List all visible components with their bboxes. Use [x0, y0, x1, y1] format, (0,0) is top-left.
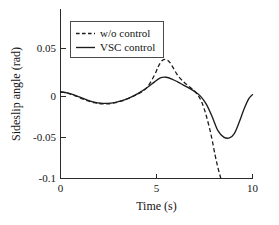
legend-label-vsc-control: VSC control	[100, 41, 155, 53]
series-wo-control	[61, 59, 221, 178]
y-tickmarks	[61, 49, 66, 179]
x-tick-label-0: 0	[58, 182, 64, 194]
chart-legend: w/o control VSC control	[71, 22, 164, 58]
y-tick-label-0: 0.05	[37, 42, 57, 54]
x-axis-title: Time (s)	[136, 199, 177, 213]
data-series-group	[61, 59, 253, 178]
y-axis-title: Sideslip angle (rad)	[9, 47, 23, 141]
y-tick-label-2: -0.05	[33, 131, 56, 143]
x-tick-label-1: 5	[154, 182, 160, 194]
legend-label-wo-control: w/o control	[100, 27, 150, 39]
y-tick-label-3: -0.1	[39, 172, 56, 184]
y-tick-label-1: 0	[51, 90, 57, 102]
chart-figure: 0.05 0 -0.05 -0.1 0 5 10 Time (s) Sidesl…	[0, 0, 279, 225]
sideslip-angle-line-chart: 0.05 0 -0.05 -0.1 0 5 10 Time (s) Sidesl…	[0, 0, 279, 225]
series-vsc-control	[61, 77, 253, 138]
x-tick-label-2: 10	[247, 182, 259, 194]
x-tickmarks	[61, 174, 253, 179]
